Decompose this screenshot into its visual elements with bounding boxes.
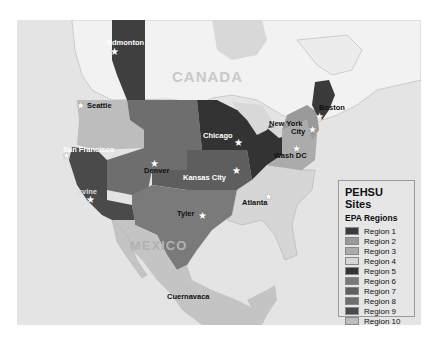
- city-label-wash-dc: Wash DC: [274, 152, 307, 160]
- legend-item: Region 5: [345, 266, 408, 276]
- city-label-denver: Denver: [144, 167, 169, 175]
- city-label-tyler: Tyler: [177, 210, 194, 218]
- legend-label: Region 2: [364, 237, 396, 246]
- legend-swatch: [345, 247, 359, 255]
- star-icon-cuernavaca: ☆: [182, 283, 191, 292]
- city-label-cuernavaca: Cuernavaca: [167, 293, 210, 301]
- legend-swatch: [345, 287, 359, 295]
- country-label-mexico: MEXICO: [130, 238, 187, 253]
- legend-item: Region 2: [345, 236, 408, 246]
- star-icon-new-york: ★: [308, 125, 317, 134]
- city-label-seattle: Seattle: [87, 102, 112, 110]
- legend-label: Region 5: [364, 267, 396, 276]
- legend-title: PEHSU Sites: [345, 186, 408, 210]
- country-label-canada: CANADA: [172, 68, 243, 85]
- legend-swatch: [345, 307, 359, 315]
- star-icon-irvine: ★: [86, 195, 95, 204]
- city-label-chicago: Chicago: [203, 132, 233, 140]
- legend-swatch: [345, 257, 359, 265]
- legend-swatch: [345, 277, 359, 285]
- legend-label: Region 4: [364, 257, 396, 266]
- star-icon-edmonton: ★: [110, 47, 119, 56]
- star-icon-kansas-city: ★: [232, 166, 241, 175]
- star-icon-boston: ★: [315, 112, 324, 121]
- legend-label: Region 6: [364, 277, 396, 286]
- star-icon-san-francisco: ★: [62, 151, 71, 160]
- legend-label: Region 1: [364, 227, 396, 236]
- legend-label: Region 8: [364, 297, 396, 306]
- legend-label: Region 7: [364, 287, 396, 296]
- star-icon-chicago: ★: [234, 138, 243, 147]
- legend-swatch: [345, 267, 359, 275]
- legend-item: Region 6: [345, 276, 408, 286]
- legend-swatch: [345, 237, 359, 245]
- legend-swatch: [345, 297, 359, 305]
- legend-item: Region 10: [345, 316, 408, 326]
- legend: PEHSU Sites EPA Regions Region 1 Region …: [338, 180, 415, 317]
- legend-label: Region 10: [364, 317, 400, 326]
- legend-item: Region 4: [345, 256, 408, 266]
- legend-item: Region 1: [345, 226, 408, 236]
- legend-item: Region 9: [345, 306, 408, 316]
- legend-item: Region 3: [345, 246, 408, 256]
- star-icon-seattle: ★: [76, 101, 85, 110]
- city-label-kansas-city: Kansas City: [183, 174, 226, 182]
- legend-label: Region 9: [364, 307, 396, 316]
- city-label-atlanta: Atlanta: [242, 199, 267, 207]
- legend-label: Region 3: [364, 247, 396, 256]
- legend-swatch: [345, 317, 359, 325]
- city-label-new-york-city: City: [291, 128, 305, 136]
- legend-swatch: [345, 227, 359, 235]
- legend-subtitle: EPA Regions: [345, 213, 408, 223]
- legend-item: Region 8: [345, 296, 408, 306]
- star-icon-tyler: ★: [198, 211, 207, 220]
- legend-item: Region 7: [345, 286, 408, 296]
